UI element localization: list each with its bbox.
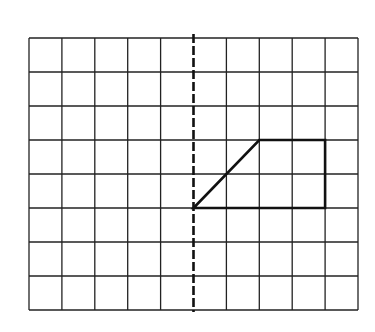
reflection-grid-diagram (0, 0, 375, 332)
